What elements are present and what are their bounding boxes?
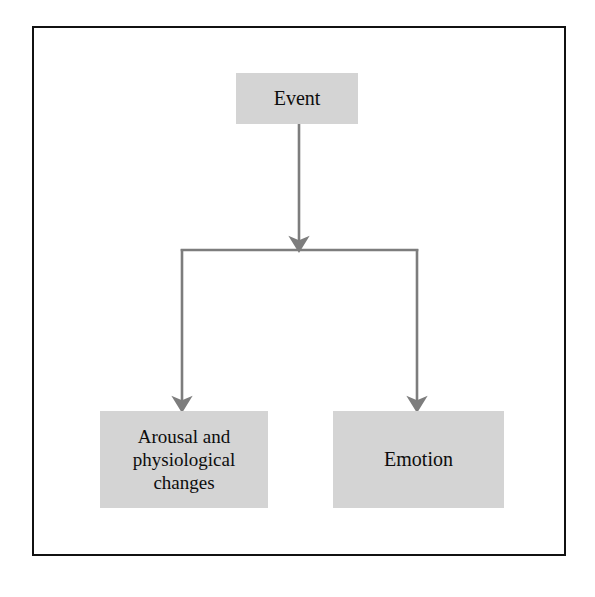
node-arousal: Arousal and physiological changes bbox=[100, 411, 268, 508]
node-emotion-line-1: Emotion bbox=[384, 447, 453, 471]
node-event-line-1: Event bbox=[274, 86, 321, 110]
node-event: Event bbox=[236, 73, 358, 124]
node-arousal-line-2: physiological bbox=[133, 448, 235, 471]
node-arousal-line-3: changes bbox=[133, 471, 235, 494]
diagram-canvas: Event Arousal and physiological changes … bbox=[0, 0, 595, 597]
node-emotion: Emotion bbox=[333, 411, 504, 508]
node-event-label: Event bbox=[268, 86, 327, 110]
node-emotion-label: Emotion bbox=[378, 447, 459, 471]
node-arousal-label: Arousal and physiological changes bbox=[127, 425, 241, 495]
node-arousal-line-1: Arousal and bbox=[133, 425, 235, 448]
